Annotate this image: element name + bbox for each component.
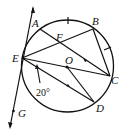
label-g: G [18, 107, 26, 119]
label-o: O [65, 54, 73, 66]
label-d: D [95, 102, 104, 114]
label-a: A [31, 17, 39, 29]
label-f: F [55, 31, 63, 43]
label-b: B [92, 15, 99, 27]
point-g-dot [12, 110, 15, 113]
angle-label: 20° [36, 87, 50, 98]
tangent-arrow-top-icon [31, 6, 35, 13]
label-c: C [111, 74, 119, 86]
segment-bc [93, 29, 110, 76]
label-e: E [11, 52, 19, 64]
tangent-arrow-bottom-icon [8, 122, 13, 129]
geometry-diagram: A B C D E F O G 20° [0, 0, 124, 132]
